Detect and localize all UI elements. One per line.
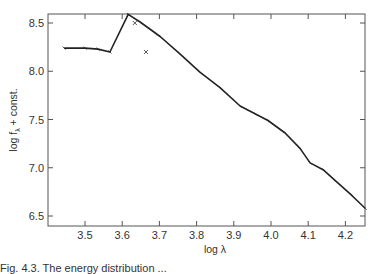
x-tick-label: 3.9 xyxy=(226,229,241,241)
x-tick-label: 3.5 xyxy=(77,229,92,241)
x-tick-label: 4.2 xyxy=(338,229,353,241)
y-tick-label: 8.5 xyxy=(29,17,44,29)
x-axis-label: log λ xyxy=(204,243,227,255)
x-tick-label: 3.7 xyxy=(152,229,167,241)
y-tick-label: 7.0 xyxy=(29,162,44,174)
energy-distribution-line xyxy=(64,14,365,208)
y-axis-label: log fλ + const. xyxy=(7,88,21,151)
y-tick-label: 7.5 xyxy=(29,114,44,126)
x-axis-ticks: 3.53.63.73.83.94.04.14.2 xyxy=(77,14,353,241)
x-marker-icon xyxy=(144,50,148,54)
y-axis-label-main: log f xyxy=(7,132,19,152)
x-tick-label: 3.8 xyxy=(189,229,204,241)
figure-caption: Fig. 4.3. The energy distribution ... xyxy=(0,262,167,274)
y-tick-label: 6.5 xyxy=(29,210,44,222)
y-tick-label: 8.0 xyxy=(29,65,44,77)
svg-text:log fλ + const.: log fλ + const. xyxy=(7,88,21,151)
plot-frame xyxy=(48,14,365,226)
x-tick-label: 4.1 xyxy=(301,229,316,241)
x-tick-label: 4.0 xyxy=(263,229,278,241)
data-series xyxy=(63,13,367,210)
x-marker-icon xyxy=(133,21,137,25)
y-axis-label-suffix: + const. xyxy=(7,88,19,128)
x-tick-label: 3.6 xyxy=(115,229,130,241)
